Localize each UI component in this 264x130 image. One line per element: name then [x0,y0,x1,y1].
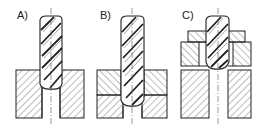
panel-a-label: A) [17,9,28,21]
diagram-canvas: A) B) [0,0,264,130]
base-block [181,70,251,118]
panel-a: A) [16,8,84,126]
panel-c-label: C) [182,9,194,21]
panel-b-label: B) [100,9,111,21]
panel-b: B) [97,8,167,126]
panel-c: C) [181,8,251,126]
end-mill-tool [206,16,229,69]
end-mill-tool [121,16,144,106]
